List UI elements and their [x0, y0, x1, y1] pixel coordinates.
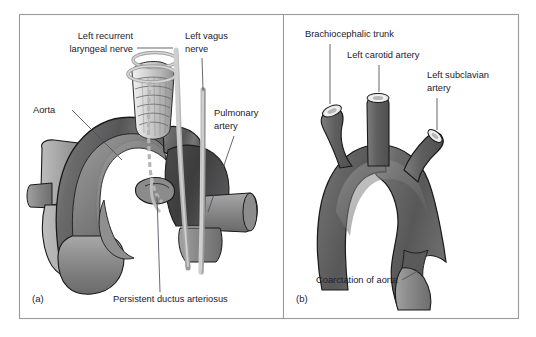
vagus-nerve-branch-a — [201, 90, 203, 272]
label-aorta: Aorta — [33, 105, 56, 115]
left-carotid-artery-b — [367, 93, 389, 166]
label-left-subclavian-artery-line2: artery — [427, 83, 451, 93]
label-left-vagus-nerve-line2: nerve — [185, 44, 208, 54]
label-left-carotid-artery: Left carotid artery — [347, 50, 420, 60]
panel-b-letter: (b) — [296, 293, 308, 304]
panel-a-letter: (a) — [32, 293, 44, 304]
label-left-recurrent-laryngeal-nerve-line2: laryngeal nerve — [69, 44, 133, 54]
label-persistent-ductus-arteriosus: Persistent ductus arteriosus — [113, 294, 228, 304]
label-left-vagus-nerve-line1: Left vagus — [185, 31, 228, 41]
trachea-a — [132, 61, 174, 139]
pulmonary-artery-cut-end-a — [243, 193, 257, 231]
label-left-recurrent-laryngeal-nerve-line1: Left recurrent — [78, 31, 134, 41]
label-brachiocephalic-trunk: Brachiocephalic trunk — [305, 29, 394, 39]
label-pulmonary-artery-line1: Pulmonary — [214, 108, 259, 118]
aortic-arch-figure: Left recurrent laryngeal nerve Left vagu… — [0, 0, 536, 337]
label-pulmonary-artery-line2: artery — [214, 121, 238, 131]
ductus-arteriosus-a — [136, 178, 175, 205]
label-coarctation-of-aorta: Coarctation of aorta — [316, 275, 398, 285]
left-stub-vessel-a — [27, 183, 52, 208]
label-left-subclavian-artery-line1: Left subclavian — [427, 70, 489, 80]
